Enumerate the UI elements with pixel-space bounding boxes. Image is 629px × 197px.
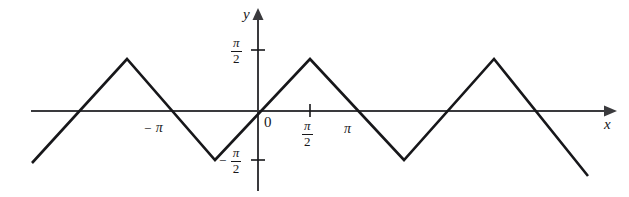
fraction-denominator: 2 [231,52,242,66]
fraction-numerator: π [302,119,313,133]
minus-sign: − [219,154,227,167]
y-tick-label-neg-half-pi: − π 2 [219,146,241,175]
y-axis-arrowhead [253,8,264,20]
fraction-neg-half-pi: π 2 [231,146,242,175]
x-tick-label-neg-pi: − π [144,121,163,135]
y-axis-label: y [243,7,250,22]
fraction-x-half-pi: π 2 [302,119,313,148]
x-axis-arrowhead [604,106,617,117]
x-tick-label-pi: π [344,122,351,136]
y-tick-label-half-pi: π 2 [231,36,242,65]
x-axis-label: x [604,117,611,132]
fraction-numerator: π [231,36,242,50]
pi-symbol: π [156,120,163,135]
origin-label: 0 [264,115,272,130]
fraction-numerator: π [231,146,242,160]
fraction-half-pi: π 2 [231,36,242,65]
fraction-denominator: 2 [231,162,242,176]
plot-canvas [0,0,629,197]
y-axis [253,8,264,191]
x-axis [31,106,617,117]
fraction-denominator: 2 [302,135,313,149]
triangle-wave-figure: y x 0 π 2 − π 2 π 2 π − π [0,0,629,197]
minus-sign: − [144,122,152,135]
x-tick-label-half-pi: π 2 [302,119,313,148]
